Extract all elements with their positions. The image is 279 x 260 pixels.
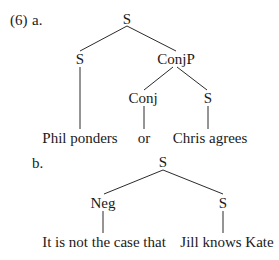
tree-b-s-node: S — [219, 195, 227, 211]
tree-b-leaf-neg: It is not the case that — [42, 234, 166, 250]
edge-b-root-s — [163, 170, 223, 194]
tree-a-right-s-node: S — [204, 90, 212, 106]
tree-a-leaf-conj: or — [138, 130, 151, 146]
subexample-a-label: a. — [32, 12, 42, 28]
edge-a-root-left — [80, 26, 127, 51]
edge-b-root-neg — [104, 170, 163, 194]
tree-a-root-node: S — [123, 11, 131, 27]
tree-b-neg-node: Neg — [91, 195, 116, 211]
tree-a-conj-node: Conj — [128, 90, 157, 106]
tree-a-leaf-right: Chris agrees — [173, 130, 248, 146]
subexample-b-label: b. — [32, 155, 43, 171]
example-number: (6) — [10, 12, 28, 28]
edge-a-root-conjp — [127, 26, 176, 51]
tree-a-conjp-node: ConjP — [157, 51, 195, 67]
tree-a-left-s-node: S — [76, 51, 84, 67]
tree-b-leaf-s: Jill knows Kate — [180, 234, 273, 250]
tree-a-leaf-left: Phil ponders — [42, 130, 117, 146]
edge-a-conjp-conj — [144, 67, 173, 90]
edge-a-conjp-s — [177, 67, 207, 90]
tree-b-root-node: S — [159, 154, 167, 170]
